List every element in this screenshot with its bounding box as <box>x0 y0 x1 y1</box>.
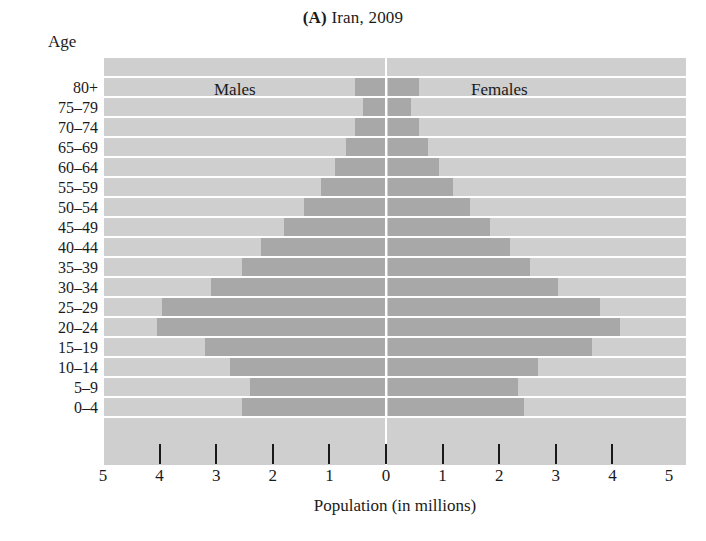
x-tick-mark <box>498 444 500 464</box>
chart-title: (A) Iran, 2009 <box>0 8 706 28</box>
age-tick-label: 65–69 <box>2 140 98 156</box>
population-pyramid-figure: (A) Iran, 2009 Age 80+75–7970–7465–6960–… <box>0 0 706 541</box>
x-axis-tick-marks <box>104 444 686 466</box>
age-tick-label: 5–9 <box>2 380 98 396</box>
age-tick-label: 60–64 <box>2 160 98 176</box>
chart-title-text: Iran, 2009 <box>331 8 403 27</box>
bar-male <box>346 138 386 156</box>
x-tick-label: 0 <box>371 466 401 486</box>
age-tick-label: 25–29 <box>2 300 98 316</box>
age-tick-label: 70–74 <box>2 120 98 136</box>
panel-letter: (A) <box>303 8 327 27</box>
bar-male <box>355 118 386 136</box>
plot-area: Males Females <box>104 58 686 465</box>
band-row <box>104 138 686 158</box>
age-tick-label: 75–79 <box>2 100 98 116</box>
bar-male <box>230 358 386 376</box>
bar-female <box>388 338 592 356</box>
bar-male <box>242 398 386 416</box>
age-tick-label: 10–14 <box>2 360 98 376</box>
band-row <box>104 178 686 198</box>
age-axis-title: Age <box>48 32 76 52</box>
series-label-males: Males <box>214 80 256 100</box>
bar-male <box>205 338 386 356</box>
bar-female <box>388 98 411 116</box>
band-row <box>104 98 686 118</box>
bar-male <box>162 298 386 316</box>
x-tick-label: 3 <box>541 466 571 486</box>
band-row-blank <box>104 58 686 78</box>
age-tick-label: 15–19 <box>2 340 98 356</box>
band-row <box>104 398 686 418</box>
x-tick-label: 2 <box>258 466 288 486</box>
band-row <box>104 118 686 138</box>
age-tick-label: 40–44 <box>2 240 98 256</box>
x-tick-label: 1 <box>428 466 458 486</box>
bar-female <box>388 378 518 396</box>
bar-male <box>355 78 386 96</box>
band-row <box>104 78 686 98</box>
bar-female <box>388 278 558 296</box>
age-tick-label: 55–59 <box>2 180 98 196</box>
band-row <box>104 358 686 378</box>
bar-female <box>388 138 428 156</box>
x-tick-label: 2 <box>484 466 514 486</box>
x-tick-label: 5 <box>88 466 118 486</box>
x-tick-mark <box>442 444 444 464</box>
age-tick-label: 50–54 <box>2 200 98 216</box>
bar-female <box>388 178 453 196</box>
band-row <box>104 318 686 338</box>
age-tick-label: 0–4 <box>2 400 98 416</box>
bar-female <box>388 298 600 316</box>
bar-female <box>388 218 490 236</box>
bar-female <box>388 78 419 96</box>
band-row <box>104 218 686 238</box>
bar-male <box>321 178 386 196</box>
band-row <box>104 278 686 298</box>
x-tick-label: 1 <box>314 466 344 486</box>
x-tick-label: 3 <box>201 466 231 486</box>
x-tick-mark <box>555 444 557 464</box>
bar-male <box>211 278 386 296</box>
bar-male <box>261 238 386 256</box>
x-tick-label: 4 <box>597 466 627 486</box>
bar-male <box>363 98 386 116</box>
bar-female <box>388 158 439 176</box>
x-axis-tick-labels: 54321012345 <box>104 466 686 490</box>
x-tick-mark <box>328 444 330 464</box>
bar-female <box>388 398 524 416</box>
bar-female <box>388 198 470 216</box>
age-tick-label: 20–24 <box>2 320 98 336</box>
bar-female <box>388 358 538 376</box>
x-axis-title: Population (in millions) <box>104 496 686 516</box>
bar-male <box>304 198 386 216</box>
bar-male <box>242 258 386 276</box>
age-axis-tick-labels: 80+75–7970–7465–6960–6455–5950–5445–4940… <box>0 58 98 465</box>
band-row <box>104 378 686 398</box>
bar-male <box>157 318 386 336</box>
age-tick-label: 45–49 <box>2 220 98 236</box>
bar-female <box>388 258 530 276</box>
bar-male <box>335 158 386 176</box>
bar-male <box>250 378 386 396</box>
band-row <box>104 238 686 258</box>
age-tick-label: 35–39 <box>2 260 98 276</box>
bar-female <box>388 238 510 256</box>
band-row <box>104 158 686 178</box>
age-tick-label: 80+ <box>2 80 98 96</box>
band-row <box>104 198 686 218</box>
x-tick-mark <box>272 444 274 464</box>
x-tick-mark <box>611 444 613 464</box>
band-row <box>104 338 686 358</box>
x-tick-mark <box>385 444 387 464</box>
x-tick-mark <box>159 444 161 464</box>
center-axis-line <box>385 58 387 465</box>
bar-male <box>284 218 386 236</box>
x-tick-label: 4 <box>145 466 175 486</box>
x-tick-label: 5 <box>654 466 684 486</box>
bar-female <box>388 118 419 136</box>
band-row <box>104 258 686 278</box>
bar-female <box>388 318 620 336</box>
series-label-females: Females <box>471 80 528 100</box>
age-tick-label: 30–34 <box>2 280 98 296</box>
